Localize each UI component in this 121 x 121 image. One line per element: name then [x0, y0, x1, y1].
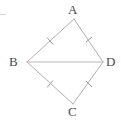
- vertex-label-c: C: [68, 105, 77, 118]
- vertex-label-a: A: [68, 3, 77, 16]
- quadrilateral-diagram-svg: [0, 0, 121, 121]
- edge-ab: [27, 19, 74, 62]
- vertex-label-d: D: [106, 55, 115, 68]
- edge-bc: [27, 62, 73, 104]
- geometry-figure: A B C D: [0, 0, 121, 121]
- vertex-label-b: B: [9, 55, 18, 68]
